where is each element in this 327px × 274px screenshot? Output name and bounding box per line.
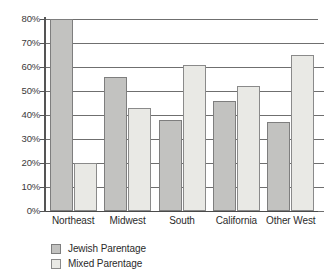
y-tick-label: 50% (4, 86, 40, 96)
x-tick-label-other-west: Other West (264, 215, 318, 226)
x-tick-label-northeast: Northeast (46, 215, 100, 226)
bar-mixed-northeast[interactable] (74, 163, 97, 211)
y-tick-label: 0% (4, 206, 40, 216)
bar-group (50, 19, 97, 211)
x-tick-label-midwest: Midwest (100, 215, 154, 226)
bar-jewish-south[interactable] (159, 120, 182, 211)
bar-mixed-california[interactable] (237, 86, 260, 211)
y-tick-label: 80% (4, 14, 40, 24)
y-tick-mark (40, 211, 45, 212)
bar-mixed-midwest[interactable] (128, 108, 151, 211)
plot-area (46, 19, 318, 211)
y-tick-label: 30% (4, 134, 40, 144)
legend-swatch-jewish (51, 244, 61, 254)
right-tick-mark (318, 67, 324, 68)
bar-group (267, 19, 314, 211)
x-axis-labels: NortheastMidwestSouthCaliforniaOther Wes… (46, 215, 318, 231)
y-tick-label: 40% (4, 110, 40, 120)
y-tick-label: 20% (4, 158, 40, 168)
bar-group (104, 19, 151, 211)
right-tick-mark (318, 91, 324, 92)
legend-label: Jewish Parentage (68, 243, 146, 254)
y-tick-mark (40, 91, 45, 92)
y-tick-label: 70% (4, 38, 40, 48)
bar-jewish-northeast[interactable] (50, 19, 73, 211)
x-tick-label-california: California (209, 215, 263, 226)
right-tick-mark (318, 163, 324, 164)
chart-legend: Jewish ParentageMixed Parentage (51, 241, 146, 271)
right-tick-mark (318, 187, 324, 188)
bar-jewish-california[interactable] (213, 101, 236, 211)
right-tick-mark (318, 211, 324, 212)
legend-item-mixed[interactable]: Mixed Parentage (51, 256, 146, 271)
right-tick-mark (318, 43, 324, 44)
bar-jewish-other-west[interactable] (267, 122, 290, 211)
y-tick-label: 10% (4, 182, 40, 192)
x-tick-label-south: South (155, 215, 209, 226)
legend-swatch-mixed (51, 259, 61, 269)
legend-item-jewish[interactable]: Jewish Parentage (51, 241, 146, 256)
right-tick-mark (318, 139, 324, 140)
bar-mixed-south[interactable] (183, 65, 206, 211)
x-axis-baseline (46, 211, 318, 212)
y-tick-mark (40, 43, 45, 44)
y-tick-mark (40, 115, 45, 116)
bar-group (213, 19, 260, 211)
bar-group (159, 19, 206, 211)
right-tick-mark (318, 115, 324, 116)
y-tick-mark (40, 163, 45, 164)
y-tick-label: 60% (4, 62, 40, 72)
y-tick-mark (40, 187, 45, 188)
bar-mixed-other-west[interactable] (291, 55, 314, 211)
y-tick-mark (40, 139, 45, 140)
y-tick-mark (40, 19, 45, 20)
y-tick-mark (40, 67, 45, 68)
bar-chart: 80%70%60%50%40%30%20%10%0% NortheastMidw… (0, 0, 327, 274)
legend-label: Mixed Parentage (68, 258, 142, 269)
y-axis-labels: 80%70%60%50%40%30%20%10%0% (0, 0, 40, 274)
bar-jewish-midwest[interactable] (104, 77, 127, 211)
